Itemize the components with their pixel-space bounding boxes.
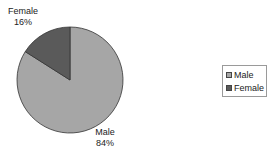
legend-item-female: Female xyxy=(226,81,266,94)
label-male-pct: 84% xyxy=(88,138,122,149)
legend-swatch-male xyxy=(226,72,232,78)
data-label-female: Female 16% xyxy=(6,6,40,28)
data-label-male: Male 84% xyxy=(88,127,122,149)
legend-label-female: Female xyxy=(234,83,264,93)
legend-item-male: Male xyxy=(226,68,266,81)
label-male-name: Male xyxy=(88,127,122,138)
label-female-pct: 16% xyxy=(6,17,40,28)
legend-swatch-female xyxy=(226,85,232,91)
chart-legend: Male Female xyxy=(222,65,267,97)
legend-label-male: Male xyxy=(234,70,254,80)
label-female-name: Female xyxy=(6,6,40,17)
